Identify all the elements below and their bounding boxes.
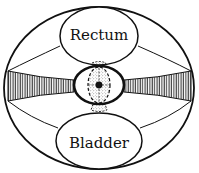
peritoneal-line-lower-left xyxy=(8,101,58,128)
pelvis-diagram: Rectum Bladder xyxy=(0,0,199,173)
cervical-os-dot xyxy=(96,82,103,89)
left-broad-ligament xyxy=(8,71,74,101)
bladder-label: Bladder xyxy=(69,134,130,152)
rectum-label: Rectum xyxy=(70,26,128,44)
right-broad-ligament xyxy=(124,71,191,101)
